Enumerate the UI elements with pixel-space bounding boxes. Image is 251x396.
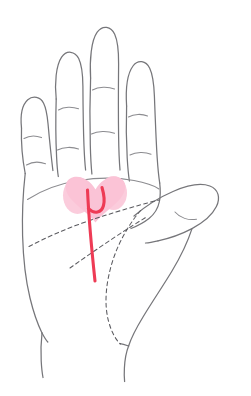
little-finger-crease-upper	[24, 136, 42, 138]
ring-finger-inner-edge	[56, 99, 58, 177]
ring-finger-outline	[56, 52, 86, 170]
wrist-left-edge	[41, 333, 43, 378]
middle-finger-crease-upper	[93, 87, 115, 90]
wrist-left-crease	[42, 333, 48, 342]
life-line	[106, 211, 140, 345]
palm-right-upper-edge	[131, 183, 160, 229]
thumb-webbing-outline	[129, 229, 192, 346]
middle-finger-crease-lower	[92, 131, 115, 134]
index-finger-crease-upper	[129, 114, 148, 117]
wrist-right-edge	[124, 346, 128, 382]
middle-finger-outline	[90, 27, 120, 170]
wrist-right-crease	[120, 344, 129, 346]
middle-finger-inner-edge	[90, 78, 92, 174]
index-finger-outline	[126, 62, 159, 183]
little-finger-crease-lower	[27, 162, 46, 165]
thumb-crease	[175, 212, 197, 220]
palm-diagram-canvas: Palmistry hand diagram Highlighted palm …	[0, 0, 251, 396]
thumb-base-outline	[146, 241, 159, 243]
head-line	[70, 217, 147, 268]
palm-illustration	[0, 0, 251, 396]
index-finger-crease-lower	[130, 152, 151, 155]
little-finger-outline	[21, 97, 53, 170]
ring-finger-crease-lower	[58, 147, 79, 150]
heart-highlight-group	[63, 176, 127, 223]
ring-finger-crease-upper	[59, 107, 79, 110]
palm-left-edge	[22, 174, 42, 334]
little-finger-inner-edge	[21, 128, 25, 174]
